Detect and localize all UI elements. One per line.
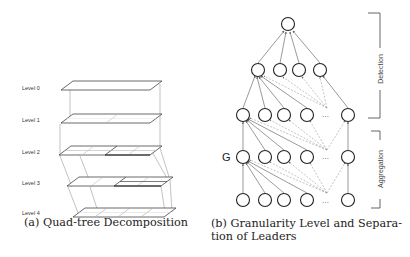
layer-level-0 xyxy=(61,81,162,90)
caption-quad-tree: (a) Quad-tree Decomposition xyxy=(24,216,188,229)
level-1-label: Level 1 xyxy=(22,117,40,123)
node xyxy=(259,109,272,122)
node xyxy=(342,194,355,207)
node xyxy=(237,109,250,122)
caption-line-1: (b) Granularity Level and Separa- xyxy=(211,217,406,230)
edges-row4-row3 xyxy=(243,161,348,193)
node xyxy=(237,194,250,207)
node xyxy=(274,64,287,77)
node xyxy=(314,64,327,77)
aggregation-label: Aggregation xyxy=(377,150,385,188)
ellipsis-row2: … xyxy=(322,111,329,119)
layer-level-1 xyxy=(61,114,162,123)
edges-row2-row1-dashed xyxy=(264,76,327,108)
node xyxy=(301,151,314,164)
level-3-label: Level 3 xyxy=(22,180,40,186)
node xyxy=(342,151,355,164)
quad-tree-panel: Level 0 Level 1 Level 2 Level 3 xyxy=(0,0,205,257)
node xyxy=(278,151,291,164)
caption-granularity: (b) Granularity Level and Separa- tion o… xyxy=(211,217,406,243)
layer-level-3 xyxy=(67,177,173,186)
root-node xyxy=(282,18,295,31)
node xyxy=(237,151,250,164)
layer-level-2 xyxy=(59,146,162,155)
tree-nodes xyxy=(237,18,355,207)
level-2-label: Level 2 xyxy=(22,149,40,155)
node xyxy=(278,194,291,207)
node xyxy=(293,64,306,77)
node xyxy=(252,64,265,77)
edges-row3-row2 xyxy=(243,119,348,150)
detection-label: Detection xyxy=(377,54,384,84)
caption-line-2: tion of Leaders xyxy=(211,230,406,243)
ellipsis-row3: … xyxy=(322,153,329,161)
granularity-panel: … … … G Detection Aggregation (b) Granul… xyxy=(205,0,410,257)
node xyxy=(259,151,272,164)
node xyxy=(278,109,291,122)
level-0-label: Level 0 xyxy=(22,85,40,91)
node xyxy=(301,194,314,207)
node xyxy=(342,109,355,122)
node xyxy=(301,109,314,122)
edges-detection-top xyxy=(258,31,320,63)
ellipsis-row4: … xyxy=(322,197,329,205)
node xyxy=(259,194,272,207)
granularity-label: G xyxy=(222,151,231,163)
